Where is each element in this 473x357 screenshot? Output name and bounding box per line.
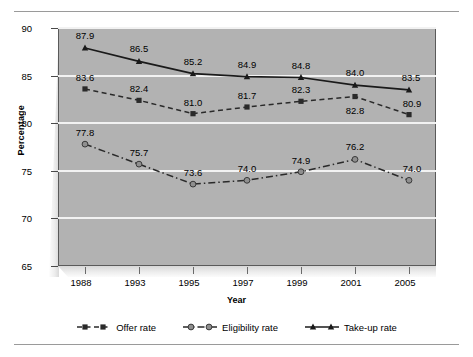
data-label: 84.9 xyxy=(238,58,257,69)
series-marker xyxy=(298,99,303,104)
x-tick-label: 1995 xyxy=(178,277,199,288)
y-tick-mark xyxy=(51,266,58,267)
data-label: 81.7 xyxy=(238,90,257,101)
divider-rule-top xyxy=(14,11,459,12)
chart-figure: Percentage Year 657075808590 19881993199… xyxy=(0,0,473,357)
y-tick-mark xyxy=(51,171,58,172)
series-marker xyxy=(298,169,304,175)
x-tick-mark xyxy=(193,267,194,274)
x-tick-mark xyxy=(355,267,356,274)
x-tick-mark xyxy=(301,267,302,274)
series-marker xyxy=(244,177,250,183)
x-tick-mark xyxy=(85,267,86,274)
series-marker xyxy=(82,86,87,91)
series-marker xyxy=(82,45,88,51)
x-tick-label: 1999 xyxy=(286,277,307,288)
data-label: 82.8 xyxy=(346,104,365,115)
y-tick-label: 90 xyxy=(6,23,32,34)
data-label: 74.9 xyxy=(292,154,311,165)
plot-area: 83.682.481.081.782.382.880.977.875.773.6… xyxy=(58,28,436,266)
data-label: 75.7 xyxy=(130,147,149,158)
data-label: 84.0 xyxy=(346,67,365,78)
y-tick-label: 70 xyxy=(6,213,32,224)
x-tick-mark xyxy=(139,267,140,274)
x-tick-mark xyxy=(247,267,248,274)
legend-symbol xyxy=(304,321,340,333)
x-tick-label: 2001 xyxy=(340,277,361,288)
x-tick-label: 1997 xyxy=(232,277,253,288)
series-marker xyxy=(352,156,358,162)
y-tick-label: 65 xyxy=(6,261,32,272)
series-marker xyxy=(352,94,357,99)
data-label: 77.8 xyxy=(76,127,95,138)
data-label: 84.8 xyxy=(292,59,311,70)
data-label: 82.4 xyxy=(130,83,149,94)
data-label: 87.9 xyxy=(76,29,95,40)
legend-item-take-up-rate[interactable]: Take-up rate xyxy=(304,321,397,333)
y-tick-label: 85 xyxy=(6,70,32,81)
legend-label: Offer rate xyxy=(116,322,156,333)
data-label: 74.0 xyxy=(238,163,257,174)
series-marker xyxy=(406,112,411,117)
y-tick-mark xyxy=(51,28,58,29)
y-tick-mark xyxy=(51,76,58,77)
x-tick-label: 1988 xyxy=(70,277,91,288)
data-label: 86.5 xyxy=(130,43,149,54)
y-tick-mark xyxy=(51,218,58,219)
divider-rule-bottom xyxy=(14,344,459,345)
legend-symbol xyxy=(182,321,218,333)
legend-label: Eligibility rate xyxy=(222,322,278,333)
series-marker xyxy=(406,177,412,183)
x-tick-mark xyxy=(409,267,410,274)
series-marker xyxy=(190,181,196,187)
data-label: 74.0 xyxy=(403,163,422,174)
data-label: 73.6 xyxy=(184,167,203,178)
legend-item-eligibility-rate[interactable]: Eligibility rate xyxy=(182,321,278,333)
legend-item-offer-rate[interactable]: Offer rate xyxy=(76,321,156,333)
data-label: 81.0 xyxy=(184,96,203,107)
data-label: 80.9 xyxy=(403,97,422,108)
series-marker xyxy=(190,111,195,116)
x-tick-label: 1993 xyxy=(124,277,145,288)
data-label: 82.3 xyxy=(292,84,311,95)
data-label: 85.2 xyxy=(184,55,203,66)
y-axis-label: Percentage xyxy=(16,105,30,156)
series-marker xyxy=(136,161,142,167)
series-marker xyxy=(136,98,141,103)
legend-label: Take-up rate xyxy=(344,322,397,333)
legend-symbol xyxy=(76,321,112,333)
x-tick-label: 2005 xyxy=(394,277,415,288)
y-tick-label: 80 xyxy=(6,118,32,129)
series-marker xyxy=(244,104,249,109)
y-tick-label: 75 xyxy=(6,165,32,176)
series-marker xyxy=(82,141,88,147)
y-tick-mark xyxy=(51,123,58,124)
data-label: 83.5 xyxy=(402,71,421,82)
x-axis-label: Year xyxy=(0,295,473,305)
data-label: 76.2 xyxy=(346,141,365,152)
chart-legend: Offer rateEligibility rateTake-up rate xyxy=(0,321,473,333)
data-label: 83.6 xyxy=(76,71,95,82)
